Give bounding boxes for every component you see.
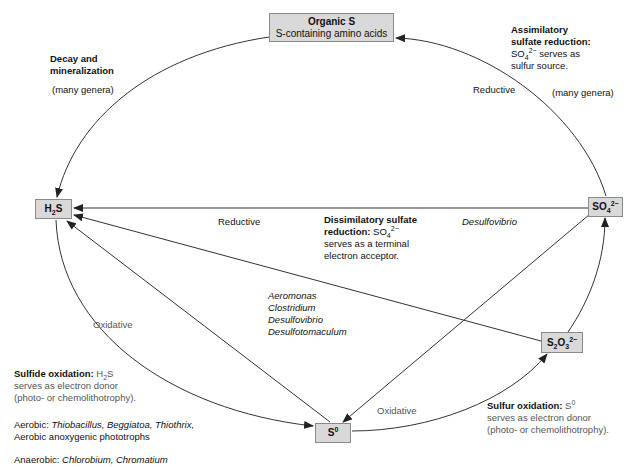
dissimilatory-title-line2: reduction: — [324, 226, 370, 237]
decay-genera: (many genera) — [52, 84, 114, 96]
organism-clostridium: Clostridium — [268, 302, 347, 314]
node-h2s: H2S — [35, 199, 72, 219]
sulfide-oxidation-label: Sulfide oxidation: H2S serves as electro… — [14, 368, 136, 404]
anaerobic-label: Anaerobic: Chlorobium, Chromatium — [14, 454, 168, 466]
sulfide-h: H — [94, 368, 104, 379]
organism-aeromonas: Aeromonas — [268, 290, 347, 302]
dissimilatory-label: Dissimilatory sulfate reduction: SO42− s… — [324, 214, 417, 262]
dissimilatory-line3: serves as a terminal — [324, 238, 417, 250]
dissimilatory-title-line1: Dissimilatory sulfate — [324, 214, 417, 226]
organic-s-title: Organic S — [308, 16, 355, 28]
assimilatory-desc-line2: sulfur source. — [511, 60, 591, 72]
sulfide-oxidation-line2: serves as electron donor — [14, 380, 136, 392]
assimilatory-title-line1: Assimilatory — [511, 24, 591, 36]
sulfur-oxidation-line2: serves as electron donor — [487, 412, 609, 424]
so4-base: SO — [592, 201, 606, 212]
sulfur-oxidation-label: Sulfur oxidation: S0 serves as electron … — [487, 400, 609, 436]
sulfur-oxidation-line3: (photo- or chemolithotrophy). — [487, 424, 609, 436]
dissimilatory-organism: Desulfovibrio — [462, 216, 517, 228]
assimilatory-reductive: Reductive — [473, 84, 515, 96]
arrow-s2o3-to-so4 — [568, 218, 605, 332]
dissim-sup: 2− — [391, 225, 399, 232]
aerobic-prefix: Aerobic: — [14, 419, 52, 430]
middle-organisms: Aeromonas Clostridium Desulfovibrio Desu… — [268, 290, 347, 338]
assim-so: SO — [511, 48, 525, 59]
h2s-h: H — [45, 203, 52, 214]
organism-desulfotomaculum: Desulfotomaculum — [268, 326, 347, 338]
assimilatory-label: Assimilatory sulfate reduction: SO42− se… — [511, 24, 591, 72]
anaerobic-genera: Chlorobium, Chromatium — [62, 454, 168, 465]
s2o3-sub2: 3 — [565, 343, 569, 350]
decay-title-line1: Decay and — [50, 53, 114, 65]
sulfur-sup: 0 — [571, 399, 575, 406]
s0-sup: 0 — [334, 426, 338, 433]
node-so4: SO42− — [588, 197, 623, 217]
node-s2o3: S2O32− — [541, 332, 583, 353]
dissimilatory-line4: electron acceptor. — [324, 250, 417, 262]
aerobic-label: Aerobic: Thiobacillus, Beggiatoa, Thioth… — [14, 419, 194, 443]
oxidative-left: Oxidative — [93, 319, 133, 331]
decay-title-line2: mineralization — [50, 65, 114, 77]
s2o3-s: S — [547, 337, 554, 348]
anaerobic-prefix: Anaerobic: — [14, 454, 62, 465]
dissim-so: SO — [370, 226, 386, 237]
s2o3-sup: 2− — [569, 335, 577, 342]
sulfur-oxidation-title: Sulfur oxidation: — [487, 400, 562, 411]
so4-sub: 4 — [607, 207, 611, 214]
assimilatory-title-line2: sulfate reduction: — [511, 36, 591, 48]
assim-rest: serves as — [537, 48, 580, 59]
aerobic-genera: Thiobacillus, Beggiatoa, Thiothrix, — [52, 419, 195, 430]
sulfide-oxidation-title: Sulfide oxidation: — [14, 368, 94, 379]
assim-sup: 2− — [529, 47, 537, 54]
oxidative-bottom: Oxidative — [377, 405, 417, 417]
decay-title: Decay and mineralization — [50, 53, 114, 77]
node-s0: S0 — [315, 423, 351, 443]
aerobic-line2: Aerobic anoxygenic phototrophs — [14, 431, 194, 443]
assimilatory-genera: (many genera) — [552, 87, 614, 99]
dissimilatory-reductive: Reductive — [218, 216, 260, 228]
h2s-s: S — [56, 203, 63, 214]
organic-s-subtitle: S-containing amino acids — [276, 28, 388, 40]
node-organic-s: Organic S S-containing amino acids — [269, 13, 394, 42]
organism-desulfovibrio: Desulfovibrio — [268, 314, 347, 326]
sulfide-s: S — [107, 368, 113, 379]
sulfide-oxidation-line3: (photo- or chemolithotrophy). — [14, 392, 136, 404]
so4-sup: 2− — [611, 200, 619, 207]
